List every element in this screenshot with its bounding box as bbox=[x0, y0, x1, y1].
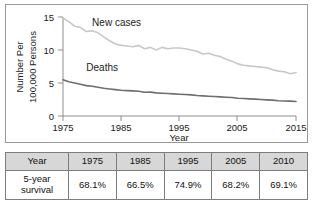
y-axis-ticks bbox=[58, 17, 63, 116]
table-header-cell-2010: 2010 bbox=[260, 153, 308, 171]
x-axis-title: Year bbox=[169, 132, 188, 142]
y-axis-title: Number Per 100,000 Persons bbox=[14, 31, 38, 103]
table-header-cell-1995: 1995 bbox=[164, 153, 212, 171]
table-header-cell-year: Year bbox=[6, 153, 69, 171]
series-label-new-cases: New cases bbox=[92, 17, 141, 28]
x-tick-label-1975: 1975 bbox=[52, 122, 73, 133]
line-chart: 0 5 10 15 1975 1985 1995 2005 2015 bbox=[6, 5, 307, 142]
x-axis-ticks bbox=[63, 116, 296, 121]
x-tick-label-1985: 1985 bbox=[110, 122, 131, 133]
table-cell-1995: 74.9% bbox=[164, 171, 212, 200]
table-body: 5-year survival 68.1% 66.5% 74.9% 68.2% … bbox=[6, 171, 308, 200]
x-tick-label-2005: 2005 bbox=[226, 122, 247, 133]
series-label-deaths: Deaths bbox=[86, 62, 118, 73]
y-tick-label-10: 10 bbox=[43, 45, 54, 56]
survival-table-wrap: Year 1975 1985 1995 2005 2010 5-year sur… bbox=[5, 152, 308, 200]
table-cell-2010: 69.1% bbox=[260, 171, 308, 200]
y-axis-tick-labels: 0 5 10 15 bbox=[43, 12, 54, 122]
x-tick-label-2015: 2015 bbox=[285, 122, 306, 133]
series-line-deaths bbox=[63, 80, 296, 102]
table-header-cell-2005: 2005 bbox=[212, 153, 260, 171]
figure-root: 0 5 10 15 1975 1985 1995 2005 2015 bbox=[0, 0, 314, 203]
table-row-label: 5-year survival bbox=[6, 171, 69, 200]
table-header-row: Year 1975 1985 1995 2005 2010 bbox=[6, 153, 308, 171]
table-row-label-line1: 5-year bbox=[24, 173, 51, 184]
table-row-label-line2: survival bbox=[21, 184, 53, 195]
y-tick-label-15: 15 bbox=[43, 12, 54, 23]
table-cell-2005: 68.2% bbox=[212, 171, 260, 200]
y-axis-title-line2: 100,000 Persons bbox=[27, 31, 38, 103]
y-tick-label-0: 0 bbox=[49, 111, 54, 122]
chart-panel: 0 5 10 15 1975 1985 1995 2005 2015 bbox=[5, 4, 308, 143]
table-cell-1975: 68.1% bbox=[69, 171, 117, 200]
survival-table: Year 1975 1985 1995 2005 2010 5-year sur… bbox=[5, 152, 308, 200]
y-tick-label-5: 5 bbox=[49, 78, 54, 89]
table-header-cell-1975: 1975 bbox=[69, 153, 117, 171]
table-head: Year 1975 1985 1995 2005 2010 bbox=[6, 153, 308, 171]
table-row: 5-year survival 68.1% 66.5% 74.9% 68.2% … bbox=[6, 171, 308, 200]
table-header-cell-1985: 1985 bbox=[116, 153, 164, 171]
y-axis-title-line1: Number Per bbox=[14, 41, 25, 92]
table-cell-1985: 66.5% bbox=[116, 171, 164, 200]
